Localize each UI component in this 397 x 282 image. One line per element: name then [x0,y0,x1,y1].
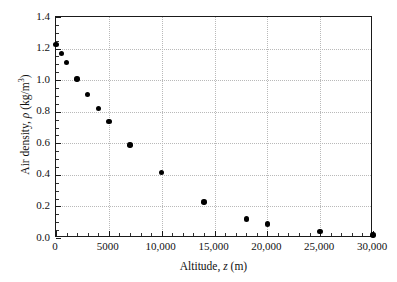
gridlines [56,17,371,236]
y-tick-major [56,143,61,144]
y-tick-label: 0.8 [36,105,50,116]
x-tick-minor [130,233,131,236]
x-tick-major [215,231,216,236]
y-tick-major [56,238,61,239]
gridline-vertical [320,17,321,236]
tick-marks [56,17,371,236]
x-tick-minor [141,233,142,236]
x-tick-minor [225,233,226,236]
x-tick-label: 5000 [97,241,119,252]
x-tick-minor [236,233,237,236]
x-axis-title: Altitude, z (m) [55,260,372,273]
x-tick-minor [77,233,78,236]
data-point [201,199,206,204]
x-tick-minor [288,233,289,236]
y-tick-minor [56,88,59,89]
y-tick-minor [56,167,59,168]
x-axis-tick-labels: 0500010,00015,00020,00025,00030,000 [55,241,372,255]
data-point [159,170,164,175]
y-tick-minor [56,64,59,65]
gridline-horizontal [56,143,371,144]
scatter-series [56,17,371,236]
y-tick-minor [56,159,59,160]
x-axis-symbol: z [223,260,227,272]
gridline-horizontal [56,206,371,207]
x-tick-minor [98,233,99,236]
gridline-horizontal [56,49,371,50]
x-tick-minor [193,233,194,236]
x-tick-minor [331,233,332,236]
x-tick-minor [119,233,120,236]
y-tick-minor [56,72,59,73]
y-tick-minor [56,183,59,184]
x-tick-minor [257,233,258,236]
figure-canvas: 0.00.20.40.60.81.01.21.4 0500010,00015,0… [0,0,397,282]
y-tick-minor [56,96,59,97]
y-tick-major [56,17,61,18]
x-tick-minor [341,233,342,236]
y-tick-label: 1.0 [36,74,50,85]
y-tick-label: 0.4 [36,168,50,179]
y-tick-minor [56,56,59,57]
x-tick-label: 0 [52,241,58,252]
y-tick-label: 1.4 [36,11,50,22]
data-point [74,76,79,81]
y-tick-minor [56,120,59,121]
x-tick-minor [278,233,279,236]
y-tick-label: 0.0 [36,232,50,243]
x-tick-major [267,231,268,236]
x-tick-major [56,231,57,236]
x-tick-major [162,231,163,236]
x-tick-minor [172,233,173,236]
y-tick-minor [56,151,59,152]
gridline-vertical [109,17,110,236]
x-tick-label: 25,000 [304,241,334,252]
y-tick-minor [56,199,59,200]
y-tick-minor [56,25,59,26]
y-axis-symbol: ρ [19,113,31,119]
plot-area [55,16,372,237]
data-point [96,106,101,111]
data-point [106,119,111,124]
y-tick-label: 1.2 [36,42,50,53]
x-tick-minor [362,233,363,236]
x-tick-minor [183,233,184,236]
data-point [59,51,64,56]
data-point [265,221,270,226]
x-tick-minor [352,233,353,236]
gridline-vertical [215,17,216,236]
x-tick-major [320,231,321,236]
x-tick-minor [310,233,311,236]
x-tick-label: 10,000 [146,241,176,252]
y-tick-minor [56,128,59,129]
gridline-horizontal [56,80,371,81]
y-axis-exponent: 3 [17,78,26,82]
x-tick-minor [67,233,68,236]
x-tick-major [373,231,374,236]
x-tick-minor [246,233,247,236]
gridline-vertical [267,17,268,236]
y-tick-label: 0.6 [36,137,50,148]
data-point [317,229,322,234]
y-tick-major [56,175,61,176]
y-tick-minor [56,230,59,231]
gridline-horizontal [56,112,371,113]
x-tick-label: 30,000 [357,241,387,252]
data-point [64,60,69,65]
y-tick-label: 0.2 [36,200,50,211]
data-point [85,92,90,97]
y-axis-title: Air density, ρ (kg/m3) [19,5,32,245]
x-tick-major [109,231,110,236]
data-point [370,232,375,237]
x-tick-label: 20,000 [251,241,281,252]
y-tick-major [56,112,61,113]
y-tick-major [56,49,61,50]
data-point [53,42,58,47]
y-tick-minor [56,41,59,42]
x-tick-minor [204,233,205,236]
y-tick-minor [56,191,59,192]
y-tick-minor [56,104,59,105]
y-tick-major [56,80,61,81]
x-tick-label: 15,000 [198,241,228,252]
x-tick-minor [88,233,89,236]
